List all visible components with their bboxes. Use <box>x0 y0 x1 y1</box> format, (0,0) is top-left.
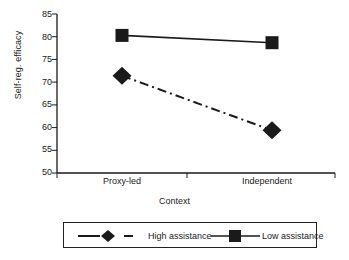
legend-marker-diamond <box>101 230 115 242</box>
series-high-assistance <box>113 67 282 140</box>
chart-legend: High assistance Low assistance <box>63 222 317 248</box>
data-point-marker-diamond <box>113 67 132 85</box>
legend-marker-square <box>229 230 241 242</box>
x-tick-label-proxy-led: Proxy-led <box>103 176 141 186</box>
x-tick-label-independent: Independent <box>242 176 292 186</box>
x-axis-label: Context <box>0 196 349 206</box>
x-axis-tick-labels: Proxy-led Independent <box>0 176 349 192</box>
series-low-assistance <box>116 29 279 49</box>
series-line-high-assistance <box>122 76 272 131</box>
plot-area <box>0 0 349 260</box>
y-axis-ticks <box>52 14 57 173</box>
chart-figure: Self-reg. efficacy 85 80 75 70 65 60 55 … <box>0 0 349 260</box>
data-point-marker-square <box>116 29 129 42</box>
legend-label-high-assistance: High assistance <box>148 231 212 241</box>
series-line-low-assistance <box>122 35 272 42</box>
data-point-marker-diamond <box>263 121 282 139</box>
legend-label-low-assistance: Low assistance <box>262 231 324 241</box>
data-point-marker-square <box>266 36 279 49</box>
